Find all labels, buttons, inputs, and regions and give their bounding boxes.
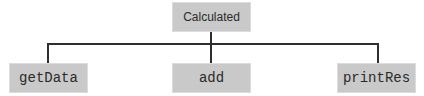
horizontal-connector — [47, 43, 379, 45]
node-calculated: Calculated — [173, 3, 250, 31]
connector-printres — [377, 43, 379, 64]
node-label: getData — [19, 70, 78, 86]
connector-getdata — [47, 43, 49, 64]
node-label: printRes — [343, 70, 410, 86]
node-add: add — [173, 64, 250, 92]
connector-add — [210, 43, 212, 64]
node-label: add — [199, 70, 224, 86]
node-getdata: getData — [10, 64, 87, 92]
node-label: Calculated — [183, 10, 240, 24]
node-printres: printRes — [338, 64, 415, 92]
